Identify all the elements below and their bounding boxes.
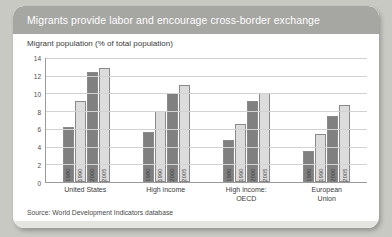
bar-year-label: 2005 bbox=[342, 168, 348, 181]
chart-plot-area: 02468101214 1980199020002005198019902000… bbox=[27, 58, 367, 200]
y-axis-tick: 10 bbox=[34, 90, 41, 97]
chart-source: Source: World Development Indicators dat… bbox=[27, 209, 173, 216]
y-axis: 02468101214 bbox=[27, 58, 43, 183]
gridline bbox=[46, 147, 367, 148]
bar-year-label: 2000 bbox=[250, 168, 256, 181]
bar[interactable]: 2000 bbox=[327, 116, 338, 182]
screenshot-root: Migrants provide labor and encourage cro… bbox=[0, 0, 392, 237]
plot-canvas: 1980199020002005198019902000200519801990… bbox=[45, 58, 367, 183]
bar[interactable]: 1980 bbox=[63, 127, 74, 182]
card-footer-bar bbox=[13, 221, 379, 228]
y-axis-tick: 14 bbox=[34, 55, 41, 62]
x-axis-label: United States bbox=[45, 185, 126, 203]
bar[interactable]: 1980 bbox=[143, 132, 154, 182]
y-axis-tick: 6 bbox=[37, 126, 41, 133]
x-axis-label: High income bbox=[126, 185, 207, 203]
bar-year-label: 1980 bbox=[65, 168, 71, 181]
gridline bbox=[46, 76, 367, 77]
gridline bbox=[46, 58, 367, 59]
bar[interactable]: 2005 bbox=[339, 105, 350, 182]
chart-card: Migrants provide labor and encourage cro… bbox=[13, 6, 379, 228]
bar-year-label: 1980 bbox=[306, 168, 312, 181]
bar-year-label: 2005 bbox=[181, 168, 187, 181]
bar-year-label: 1980 bbox=[226, 168, 232, 181]
y-axis-tick: 8 bbox=[37, 108, 41, 115]
y-axis-tick: 2 bbox=[37, 162, 41, 169]
bar[interactable]: 1990 bbox=[75, 101, 86, 182]
chart-subtitle: Migrant population (% of total populatio… bbox=[27, 39, 173, 48]
bar[interactable]: 1990 bbox=[315, 134, 326, 182]
x-axis-labels: United StatesHigh incomeHigh income:OECD… bbox=[45, 185, 367, 203]
bar-year-label: 1990 bbox=[77, 168, 83, 181]
bar[interactable]: 2005 bbox=[179, 85, 190, 182]
x-axis-label: EuropeanUnion bbox=[287, 185, 368, 203]
bar-year-label: 2005 bbox=[262, 168, 268, 181]
bar-year-label: 1990 bbox=[157, 168, 163, 181]
bar-year-label: 1990 bbox=[238, 168, 244, 181]
y-axis-tick: 12 bbox=[34, 72, 41, 79]
bar[interactable]: 2000 bbox=[247, 101, 258, 182]
bar-year-label: 1980 bbox=[145, 168, 151, 181]
bar-year-label: 2000 bbox=[89, 168, 95, 181]
y-axis-tick: 0 bbox=[37, 180, 41, 187]
gridline bbox=[46, 111, 367, 112]
bar[interactable]: 1990 bbox=[235, 124, 246, 182]
bar-year-label: 1990 bbox=[318, 168, 324, 181]
bar[interactable]: 2000 bbox=[167, 93, 178, 182]
bar-year-label: 2000 bbox=[169, 168, 175, 181]
gridline bbox=[46, 164, 367, 165]
gridline bbox=[46, 129, 367, 130]
bar[interactable]: 2000 bbox=[87, 72, 98, 182]
page-title: Migrants provide labor and encourage cro… bbox=[13, 14, 320, 26]
y-axis-tick: 4 bbox=[37, 144, 41, 151]
card-header: Migrants provide labor and encourage cro… bbox=[13, 6, 379, 34]
bar-year-label: 2005 bbox=[101, 168, 107, 181]
bar-year-label: 2000 bbox=[330, 168, 336, 181]
x-axis-label: High income:OECD bbox=[206, 185, 287, 203]
gridline bbox=[46, 93, 367, 94]
bar[interactable]: 2005 bbox=[259, 93, 270, 182]
bar[interactable]: 1980 bbox=[303, 151, 314, 182]
